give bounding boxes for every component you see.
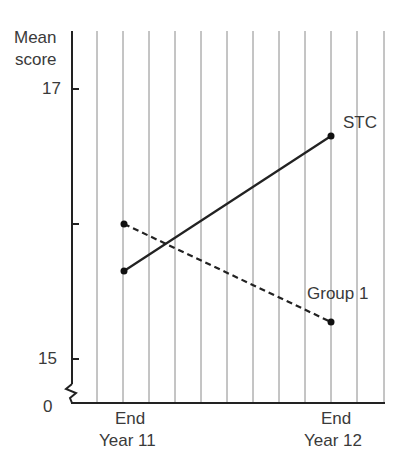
y-tick-label-15: 15 bbox=[38, 349, 57, 369]
y-tick-label-17: 17 bbox=[42, 79, 61, 99]
x-label-year12-line2: Year 12 bbox=[304, 431, 362, 451]
y-origin-label: 0 bbox=[43, 397, 52, 417]
x-label-year11-line1: End bbox=[115, 409, 145, 429]
axis-break-icon bbox=[66, 384, 76, 403]
series-label-stc: STC bbox=[343, 113, 377, 133]
point-stc-y12 bbox=[328, 133, 335, 140]
series-label-group1: Group 1 bbox=[307, 284, 368, 304]
chart-plot bbox=[0, 0, 407, 468]
y-axis-title-line1: Mean bbox=[14, 28, 57, 48]
y-axis-title-line2: score bbox=[15, 50, 57, 70]
x-label-year11-line2: Year 11 bbox=[99, 431, 156, 451]
point-stc-y11 bbox=[121, 268, 128, 275]
vertical-gridlines bbox=[97, 31, 384, 403]
x-label-year12-line1: End bbox=[321, 409, 351, 429]
point-group1-y12 bbox=[328, 319, 335, 326]
point-group1-y11 bbox=[121, 221, 128, 228]
